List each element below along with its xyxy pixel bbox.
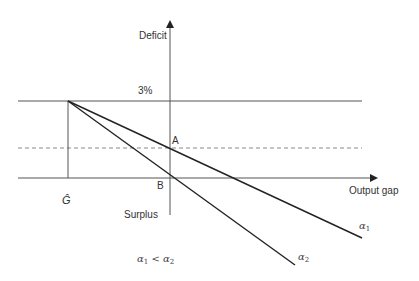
alpha2-line [68, 101, 295, 265]
surplus-label: Surplus [124, 210, 158, 220]
alpha-relation-label: α1 < α2 [137, 254, 174, 266]
relation-operator: < [148, 253, 163, 264]
alpha1-symbol: α [359, 220, 366, 231]
x-axis-arrow-icon [370, 174, 378, 182]
diagram-canvas [0, 0, 419, 281]
alpha2-subscript: 2 [305, 256, 309, 264]
point-a-label: A [172, 136, 179, 146]
relation-alpha1: α [137, 253, 144, 264]
g-hat-label: Ĝ [62, 195, 71, 206]
deficit-label: Deficit [139, 31, 167, 41]
alpha2-symbol: α [298, 251, 305, 262]
relation-alpha2-sub: 2 [170, 258, 174, 266]
alpha1-line [68, 101, 362, 238]
y-axis-arrow-icon [166, 20, 174, 28]
threshold-label: 3% [138, 86, 152, 96]
point-b-label: B [157, 181, 164, 191]
alpha2-label: α2 [298, 252, 309, 264]
relation-alpha2: α [163, 253, 170, 264]
alpha1-subscript: 1 [366, 225, 370, 233]
output-gap-label: Output gap [349, 186, 398, 196]
alpha1-label: α1 [359, 221, 370, 233]
